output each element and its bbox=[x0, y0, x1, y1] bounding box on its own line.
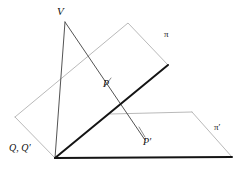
label-points-q-q-prime: Q, Q′ bbox=[9, 143, 31, 153]
label-point-p: P bbox=[103, 79, 109, 89]
plane-lower-bottom-edge bbox=[55, 157, 232, 158]
label-plane-pi-prime: π′ bbox=[214, 123, 221, 132]
geometry-canvas bbox=[0, 0, 242, 172]
plane-lower-top-edge bbox=[110, 112, 192, 114]
plane-upper-far-edges bbox=[15, 23, 168, 117]
plane-lower-right-edge bbox=[192, 112, 232, 157]
ray-vertex-to-q bbox=[55, 22, 65, 158]
label-point-p-prime: P′ bbox=[143, 137, 151, 147]
label-vertex-v: V bbox=[57, 6, 64, 17]
geometry-figure: V π P Q, Q′ P′ π′ bbox=[0, 0, 242, 172]
label-plane-pi: π bbox=[164, 30, 169, 39]
